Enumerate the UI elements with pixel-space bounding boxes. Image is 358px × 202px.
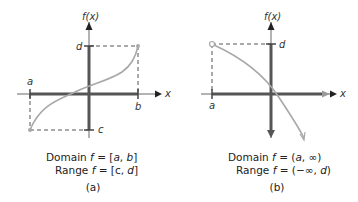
- range-eq: = (−∞,: [276, 164, 320, 176]
- y-axis-arrow-icon: [268, 22, 275, 30]
- x-axis-label-a: x: [164, 88, 171, 99]
- domain-prefix: Domain: [46, 151, 90, 163]
- domain-arrow-icon: [322, 91, 330, 98]
- domain-close: ]: [133, 151, 137, 163]
- range-eq: = [c,: [95, 164, 127, 176]
- y-axis-arrow-icon: [86, 22, 93, 30]
- x-axis-label-b: x: [339, 88, 346, 99]
- range-text-b: Range f = (−∞, d): [236, 164, 326, 177]
- panel-b: f(x) x a d: [201, 11, 346, 140]
- range-down-arrow-icon: [267, 130, 275, 138]
- label-c: c: [98, 124, 104, 135]
- domain-prefix: Domain: [228, 151, 272, 163]
- domain-eq: = [: [94, 151, 114, 163]
- range-text-a: Range f = [c, d]: [55, 164, 135, 177]
- panel-a: f(x) x a b c d: [17, 11, 171, 138]
- label-d-b: d: [279, 39, 286, 50]
- y-axis-label-a: f(x): [82, 11, 99, 22]
- label-a: a: [27, 76, 33, 87]
- range-prefix: Range: [55, 164, 92, 176]
- range-prefix: Range: [236, 164, 273, 176]
- caption-a: (a): [80, 181, 106, 194]
- panel-b-dashed-guides: [212, 44, 271, 94]
- label-d: d: [76, 41, 83, 52]
- domain-sep: ,: [120, 151, 127, 163]
- y-axis-label-b: f(x): [264, 11, 281, 22]
- range-d: d: [320, 164, 327, 176]
- closed-endpoint-right: [136, 44, 140, 48]
- open-endpoint-left: [210, 42, 215, 47]
- range-close: ): [327, 164, 331, 176]
- domain-eq: = (: [276, 151, 296, 163]
- x-axis-arrow-icon: [155, 91, 162, 98]
- caption-b: (b): [264, 181, 290, 194]
- domain-text-b: Domain f = (a, ∞): [228, 151, 318, 164]
- label-a-b: a: [209, 100, 215, 111]
- range-close: ]: [134, 164, 138, 176]
- curve-a: [30, 46, 138, 130]
- label-b: b: [135, 101, 141, 112]
- domain-close: , ∞): [302, 151, 322, 163]
- domain-text-a: Domain f = [a, b]: [46, 151, 136, 164]
- closed-endpoint-left: [28, 128, 32, 132]
- x-axis-arrow-icon: [330, 91, 337, 98]
- curve-b: [214, 45, 304, 138]
